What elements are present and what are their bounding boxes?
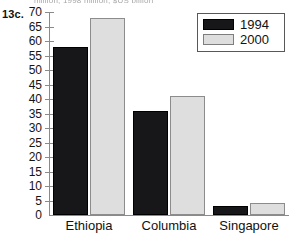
- bar-columbia-1994: [133, 111, 168, 215]
- y-axis-tick-mark: [45, 12, 54, 13]
- y-axis-tick-label: 15: [29, 166, 42, 178]
- bar-singapore-2000: [250, 203, 285, 215]
- bar-columbia-2000: [170, 96, 205, 215]
- y-axis-tick-mark: [45, 215, 54, 216]
- x-axis-label-singapore: Singapore: [219, 219, 278, 233]
- y-axis-tick-label: 65: [29, 21, 42, 33]
- bar-singapore-1994: [213, 206, 248, 215]
- y-axis-tick-label: 55: [29, 50, 42, 62]
- x-axis-label-ethiopia: Ethiopia: [66, 219, 113, 233]
- bar-ethiopia-1994: [53, 47, 88, 215]
- y-axis-tick-label: 70: [29, 6, 42, 18]
- y-axis-tick-label: 35: [29, 108, 42, 120]
- bar-chart-figure: million; 1998 million; $US billion 13c. …: [0, 0, 289, 240]
- y-axis-tick-label: 25: [29, 137, 42, 149]
- legend-swatch-2000: [203, 34, 234, 45]
- legend-swatch-1994: [203, 19, 234, 30]
- y-axis-tick-mark: [45, 41, 54, 42]
- y-axis-tick-label: 0: [35, 209, 42, 221]
- y-axis-tick-label: 10: [29, 180, 42, 192]
- legend-label-1994: 1994: [240, 18, 269, 31]
- y-axis-tick-label: 30: [29, 122, 42, 134]
- y-axis-tick-label: 20: [29, 151, 42, 163]
- clipped-caption-text: million; 1998 million; $US billion: [34, 0, 284, 5]
- bar-ethiopia-2000: [90, 18, 125, 215]
- y-axis-tick-label: 40: [29, 93, 42, 105]
- y-axis-tick-label: 45: [29, 79, 42, 91]
- y-axis-tick-mark: [45, 27, 54, 28]
- figure-number-label: 13c.: [2, 8, 24, 20]
- legend-item: 2000: [203, 32, 279, 47]
- y-axis-tick-label: 60: [29, 35, 42, 47]
- legend-item: 1994: [203, 17, 279, 32]
- chart-legend: 1994 2000: [197, 13, 285, 52]
- x-axis-label-columbia: Columbia: [142, 219, 197, 233]
- y-axis-tick-label: 50: [29, 64, 42, 76]
- y-axis-tick-label: 5: [35, 195, 42, 207]
- legend-label-2000: 2000: [240, 33, 269, 46]
- x-axis-line: [49, 215, 289, 216]
